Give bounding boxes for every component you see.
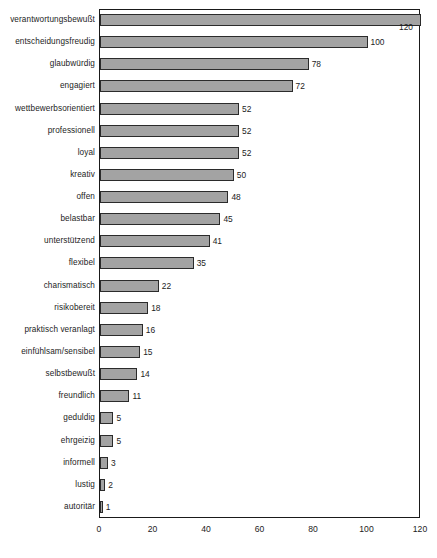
bar	[100, 58, 309, 70]
bar	[100, 368, 137, 380]
bar	[100, 103, 239, 115]
bar-row: geduldig5	[0, 407, 437, 429]
bar	[100, 14, 421, 26]
bar-row: informell3	[0, 452, 437, 474]
category-label: loyal	[0, 148, 95, 158]
category-label: kreativ	[0, 170, 95, 180]
bar-value-label: 78	[312, 59, 321, 69]
x-tick-label: 40	[201, 524, 211, 535]
x-tick-label: 120	[413, 524, 427, 535]
bar-value-label: 5	[116, 436, 121, 446]
bar	[100, 257, 194, 269]
bar-row: unterstützend41	[0, 230, 437, 252]
category-label: freundlich	[0, 391, 95, 401]
bar	[100, 412, 113, 424]
bar-value-label: 11	[132, 391, 141, 401]
bar	[100, 235, 210, 247]
category-label: informell	[0, 458, 95, 468]
x-tick-label: 60	[255, 524, 265, 535]
bar-value-label: 100	[371, 37, 385, 47]
bar-value-label: 3	[111, 458, 116, 468]
bar	[100, 479, 105, 491]
bar-row: risikobereit18	[0, 297, 437, 319]
bar-value-label: 72	[296, 81, 305, 91]
bar	[100, 191, 228, 203]
x-tick-label: 20	[148, 524, 158, 535]
bar-value-label: 18	[151, 303, 160, 313]
category-label: professionell	[0, 126, 95, 136]
bar-row: glaubwürdig78	[0, 53, 437, 75]
bar-row: engagiert72	[0, 75, 437, 97]
bar-row: wettbewerbsorientiert52	[0, 98, 437, 120]
bar	[100, 346, 140, 358]
bar-value-label: 15	[143, 347, 152, 357]
bar	[100, 457, 108, 469]
bar-value-label: 52	[242, 126, 251, 136]
bar-row: flexibel35	[0, 252, 437, 274]
bar	[100, 324, 143, 336]
category-label: verantwortungsbewußt	[0, 15, 95, 25]
bar	[100, 169, 234, 181]
bar-row: selbstbewußt14	[0, 363, 437, 385]
bar-value-label: 41	[213, 236, 222, 246]
bar-row: loyal52	[0, 142, 437, 164]
bar-row: lustig2	[0, 474, 437, 496]
bar-value-label: 22	[162, 281, 171, 291]
category-label: belastbar	[0, 214, 95, 224]
bar	[100, 390, 129, 402]
category-label: risikobereit	[0, 303, 95, 313]
bar	[100, 36, 368, 48]
bar	[100, 501, 103, 513]
bar-row: freundlich11	[0, 385, 437, 407]
bar-row: einfühlsam/sensibel15	[0, 341, 437, 363]
bar-value-label: 16	[146, 325, 155, 335]
category-label: charismatisch	[0, 281, 95, 291]
category-label: engagiert	[0, 81, 95, 91]
bar-row: praktisch veranlagt16	[0, 319, 437, 341]
bar-value-label: 52	[242, 104, 251, 114]
bar-value-label: 50	[237, 170, 246, 180]
bar-row: offen48	[0, 186, 437, 208]
bar-value-label: 2	[108, 480, 113, 490]
category-label: unterstützend	[0, 236, 95, 246]
bar	[100, 125, 239, 137]
x-tick-label: 100	[359, 524, 373, 535]
bar-value-label: 35	[197, 258, 206, 268]
bar-row: kreativ50	[0, 164, 437, 186]
bar-row: entscheidungsfreudig100	[0, 31, 437, 53]
x-axis: 020406080100120	[0, 524, 437, 544]
bar-row: charismatisch22	[0, 275, 437, 297]
category-label: autoritär	[0, 502, 95, 512]
bar-value-label: 52	[242, 148, 251, 158]
bar-value-label: 48	[231, 192, 240, 202]
bar	[100, 80, 293, 92]
category-label: offen	[0, 192, 95, 202]
category-label: glaubwürdig	[0, 59, 95, 69]
category-label: geduldig	[0, 413, 95, 423]
bar	[100, 302, 148, 314]
category-label: wettbewerbsorientiert	[0, 104, 95, 114]
bar-row: verantwortungsbewußt120	[0, 9, 437, 31]
category-label: lustig	[0, 480, 95, 490]
category-label: selbstbewußt	[0, 369, 95, 379]
bar-value-label: 14	[140, 369, 149, 379]
bar	[100, 147, 239, 159]
bar-row: belastbar45	[0, 208, 437, 230]
category-label: flexibel	[0, 258, 95, 268]
bar-value-label: 1	[106, 502, 111, 512]
bar-row: professionell52	[0, 120, 437, 142]
bar	[100, 280, 159, 292]
category-label: entscheidungsfreudig	[0, 37, 95, 47]
bar-value-label: 45	[223, 214, 232, 224]
bar-row: ehrgeizig5	[0, 429, 437, 451]
bar	[100, 435, 113, 447]
bar-value-label: 5	[116, 413, 121, 423]
bar-chart: verantwortungsbewußt120entscheidungsfreu…	[0, 0, 437, 558]
category-label: ehrgeizig	[0, 436, 95, 446]
x-tick-label: 0	[97, 524, 102, 535]
category-label: praktisch veranlagt	[0, 325, 95, 335]
bar-row: autoritär1	[0, 496, 437, 518]
x-tick-label: 80	[308, 524, 318, 535]
category-label: einfühlsam/sensibel	[0, 347, 95, 357]
bar	[100, 213, 220, 225]
